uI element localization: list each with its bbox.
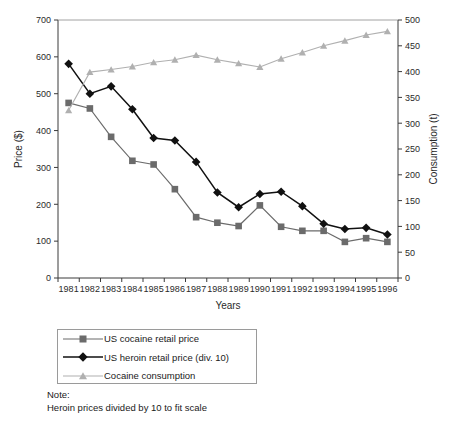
x-tick-label: 1990 — [250, 284, 270, 294]
legend-item-heroin-price: US heroin retail price (div. 10) — [58, 348, 256, 366]
y-tick-label: 500 — [36, 89, 51, 99]
series-2 — [65, 28, 391, 113]
y2-axis-title: Consumption (t) — [428, 113, 439, 184]
x-tick-label: 1983 — [101, 284, 121, 294]
triangle-marker-icon — [62, 369, 104, 383]
y2-tick-label: 50 — [405, 248, 415, 258]
y-tick-label: 0 — [46, 273, 51, 283]
x-tick-label: 1984 — [122, 284, 142, 294]
note-heading: Note: — [47, 388, 387, 401]
y2-tick-label: 450 — [405, 41, 420, 51]
price-consumption-line-chart: 0100200300400500600700050100150200250300… — [0, 0, 452, 320]
legend-label-heroin-price: US heroin retail price (div. 10) — [104, 353, 229, 363]
chart-figure: 0100200300400500600700050100150200250300… — [0, 0, 452, 426]
series-1 — [64, 60, 391, 239]
square-marker-icon — [62, 332, 104, 346]
x-tick-label: 1982 — [80, 284, 100, 294]
y-axis-title: Price ($) — [13, 130, 24, 168]
y2-tick-label: 0 — [405, 273, 410, 283]
y-tick-label: 300 — [36, 163, 51, 173]
x-tick-label: 1989 — [229, 284, 249, 294]
x-tick-label: 1995 — [356, 284, 376, 294]
y-tick-label: 600 — [36, 52, 51, 62]
x-tick-label: 1992 — [292, 284, 312, 294]
x-tick-label: 1991 — [271, 284, 291, 294]
y2-tick-label: 400 — [405, 67, 420, 77]
x-tick-label: 1986 — [165, 284, 185, 294]
y2-tick-label: 200 — [405, 170, 420, 180]
x-tick-label: 1996 — [377, 284, 397, 294]
chart-note: Note: Heroin prices divided by 10 to fit… — [47, 388, 387, 414]
y2-tick-label: 300 — [405, 119, 420, 129]
y-tick-label: 100 — [36, 236, 51, 246]
x-tick-label: 1987 — [186, 284, 206, 294]
legend-item-cocaine-consumption: Cocaine consumption — [58, 367, 256, 385]
legend-label-cocaine-consumption: Cocaine consumption — [104, 371, 195, 381]
x-tick-label: 1981 — [59, 284, 79, 294]
y2-tick-label: 500 — [405, 15, 420, 25]
x-tick-label: 1988 — [207, 284, 227, 294]
legend-item-cocaine-price: US cocaine retail price — [58, 330, 256, 348]
x-tick-label: 1985 — [144, 284, 164, 294]
x-tick-label: 1993 — [314, 284, 334, 294]
legend-label-cocaine-price: US cocaine retail price — [104, 334, 199, 344]
series-0 — [65, 100, 390, 246]
diamond-marker-icon — [62, 350, 104, 364]
note-text: Heroin prices divided by 10 to fit scale — [47, 401, 387, 414]
chart-legend: US cocaine retail price US heroin retail… — [57, 329, 257, 384]
x-axis-title: Years — [215, 300, 240, 311]
y2-tick-label: 150 — [405, 196, 420, 206]
x-tick-label: 1994 — [335, 284, 355, 294]
y-tick-label: 200 — [36, 200, 51, 210]
y2-tick-label: 350 — [405, 93, 420, 103]
y-tick-label: 400 — [36, 126, 51, 136]
y-tick-label: 700 — [36, 15, 51, 25]
y2-tick-label: 100 — [405, 222, 420, 232]
y2-tick-label: 250 — [405, 144, 420, 154]
